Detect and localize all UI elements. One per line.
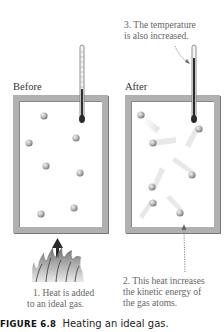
note-heat-added: 1. Heat is added to an ideal gas. <box>27 288 117 310</box>
note2-arrow-icon <box>184 230 185 272</box>
figure-title: Heating an ideal gas. <box>62 318 168 329</box>
before-atoms <box>25 112 83 217</box>
after-atoms <box>137 111 203 219</box>
figure-caption: FIGURE 6.8 Heating an ideal gas. <box>0 318 169 329</box>
figure-number: FIGURE 6.8 <box>0 319 56 329</box>
after-thermometer-icon <box>191 45 197 123</box>
before-thermometer-icon <box>79 45 85 123</box>
note-temperature-increased: 3. The temperature is also increased. <box>124 20 224 42</box>
note-kinetic-energy: 2. This heat increases the kinetic energ… <box>123 276 224 309</box>
